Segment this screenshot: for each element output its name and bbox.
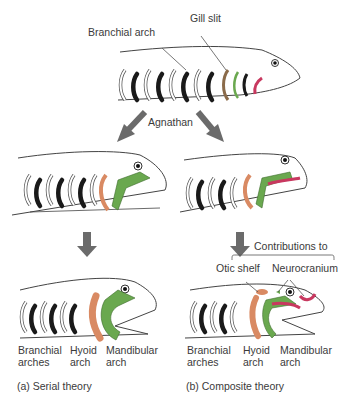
composite-label-mandibular: Mandibulararch	[280, 344, 332, 368]
caption-composite: (b) Composite theory	[186, 380, 284, 392]
serial-label-mandibular: Mandibulararch	[106, 344, 158, 368]
label-otic-shelf: Otic shelf	[216, 262, 260, 274]
fish-serial	[20, 278, 156, 340]
leader-branchial-arch	[162, 48, 186, 70]
arrow-down-right	[230, 232, 250, 257]
arrow-left	[117, 112, 145, 142]
label-agnathan: Agnathan	[148, 116, 193, 128]
label-contributions: Contributions to	[254, 240, 328, 252]
label-branchial-arch: Branchial arch	[88, 26, 155, 38]
serial-label-hyoid: Hyoidarch	[70, 344, 97, 368]
agnathan-fish	[118, 46, 300, 100]
leader-gill-slit	[201, 36, 226, 70]
contributions-bracket	[232, 255, 334, 260]
arrow-down-left	[77, 232, 97, 257]
fish-mid-left	[12, 152, 166, 215]
label-neurocranium: Neurocranium	[272, 262, 338, 274]
fish-composite	[185, 284, 324, 338]
composite-label-branchial: Branchialarches	[187, 344, 231, 368]
caption-serial: (a) Serial theory	[17, 380, 92, 392]
label-gill-slit: Gill slit	[190, 12, 221, 24]
composite-label-hyoid: Hyoidarch	[243, 344, 270, 368]
serial-label-branchial: Branchialarches	[18, 344, 62, 368]
fish-mid-right	[180, 154, 307, 212]
arrow-right	[198, 112, 224, 142]
